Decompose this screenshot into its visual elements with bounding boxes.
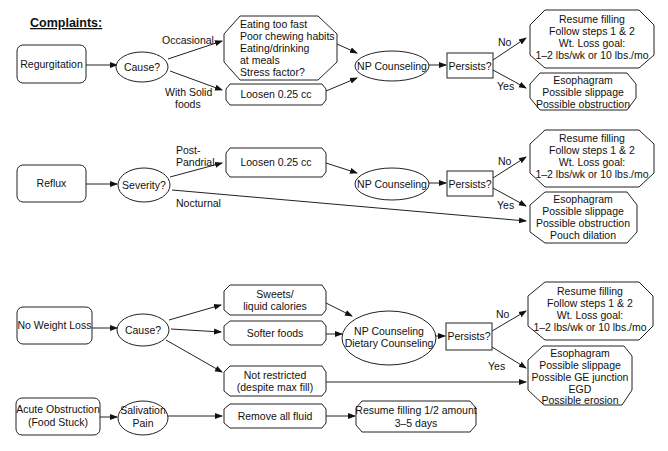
yes-label: Yes (488, 360, 505, 372)
page-title: Complaints: (30, 16, 102, 30)
np-counseling-label: NP Counseling (357, 60, 427, 72)
resume-half-line: 3–5 days (395, 417, 438, 429)
loosen-label: Loosen 0.25 cc (240, 88, 311, 100)
no-label: No (498, 155, 512, 167)
branch-label-postpandrial-2: Pandrial (176, 156, 215, 168)
outcome-line: Follow steps 1 & 2 (549, 25, 635, 37)
cause-not-restricted-line: Not restricted (244, 369, 307, 381)
no-label: No (498, 36, 512, 48)
outcome-line: 1–2 lbs/wk or 10 lbs./mo (533, 321, 646, 333)
outcome-line: Possible GE junction (532, 371, 629, 383)
branch-label-postpandrial-1: Post- (176, 144, 201, 156)
arrow (326, 78, 357, 91)
np-counseling-label: NP Counseling (354, 325, 424, 337)
regurgitation-label: Regurgitation (20, 58, 83, 70)
branch-label-solid-2: foods (175, 98, 201, 110)
row-regurgitation: Regurgitation Cause? Occasional With Sol… (17, 10, 654, 110)
outcome-line: Follow steps 1 & 2 (549, 144, 635, 156)
resume-half-line: Resume filling 1/2 amount (355, 404, 476, 416)
outcome-line: Wt. Loss goal: (559, 37, 626, 49)
outcome-line: Esophagram (553, 74, 613, 86)
cause-item: at meals (240, 54, 280, 66)
arrow (326, 303, 352, 316)
row-reflux: Reflux Severity? Post- Pandrial Nocturna… (17, 130, 654, 243)
no-label: No (496, 308, 510, 320)
yes-label: Yes (497, 199, 514, 211)
cause-softer-foods-label: Softer foods (247, 327, 304, 339)
outcome-line: Possible slippage (539, 359, 621, 371)
persists-label: Persists? (448, 178, 491, 190)
cause-item: Poor chewing habits (240, 30, 335, 42)
outcome-line: Wt. Loss goal: (559, 156, 626, 168)
remove-fluid-label: Remove all fluid (238, 410, 313, 422)
outcome-line: Possible obstruction (536, 98, 630, 110)
row-no-weight-loss: No Weight Loss Cause? Sweets/ liquid cal… (17, 282, 653, 406)
cause-sweets-line: liquid calories (243, 300, 307, 312)
outcome-line: Possible slippage (542, 86, 624, 98)
np-counseling-label: NP Counseling (357, 178, 427, 190)
outcome-line: Resume filling (559, 132, 625, 144)
outcome-line: Possible obstruction (536, 217, 630, 229)
arrow (171, 329, 221, 332)
row-acute-obstruction: Acute Obstruction (Food Stuck) Salivatio… (16, 398, 477, 435)
symptom-line: Pain (132, 417, 153, 429)
cause-label: Cause? (124, 61, 160, 73)
outcome-line: Resume filling (559, 13, 625, 25)
outcome-line: Esophagram (553, 193, 613, 205)
severity-label: Severity? (122, 179, 166, 191)
branch-label-solid-1: With Solid (165, 86, 212, 98)
outcome-line: Wt. Loss goal: (557, 309, 624, 321)
branch-label-nocturnal: Nocturnal (176, 197, 221, 209)
cause-label: Cause? (125, 324, 161, 336)
yes-label: Yes (497, 80, 514, 92)
arrow (326, 163, 357, 173)
loosen-label: Loosen 0.25 cc (240, 156, 311, 168)
no-weight-loss-label: No Weight Loss (18, 319, 92, 331)
cause-not-restricted-line: (despite max fill) (237, 381, 313, 393)
acute-obstruction-line: (Food Stuck) (28, 416, 88, 428)
cause-item: Eating/drinking (240, 42, 310, 54)
outcome-line: Follow steps 1 & 2 (547, 297, 633, 309)
outcome-line: Pouch dilation (550, 229, 616, 241)
arrow (166, 340, 222, 372)
outcome-line: 1–2 lbs/wk or 10 lbs./mo (535, 168, 648, 180)
cause-item: Stress factor? (240, 66, 305, 78)
cause-sweets-line: Sweets/ (256, 288, 293, 300)
outcome-line: 1–2 lbs/wk or 10 lbs./mo (535, 49, 648, 61)
outcome-line: Possible slippage (542, 205, 624, 217)
cause-item: Eating too fast (240, 18, 307, 30)
branch-label-occasional: Occasional (162, 34, 214, 46)
persists-label: Persists? (447, 330, 490, 342)
arrow (169, 305, 221, 320)
arrow (337, 44, 357, 53)
outcome-line: Possible erosion (541, 394, 618, 406)
reflux-label: Reflux (37, 177, 68, 189)
outcome-line: Esophagram (550, 347, 610, 359)
symptom-line: Salivation (120, 404, 166, 416)
persists-label: Persists? (448, 60, 491, 72)
dietary-counseling-label: Dietary Counseling (345, 337, 434, 349)
acute-obstruction-line: Acute Obstruction (16, 403, 100, 415)
outcome-line: Resume filling (557, 285, 623, 297)
